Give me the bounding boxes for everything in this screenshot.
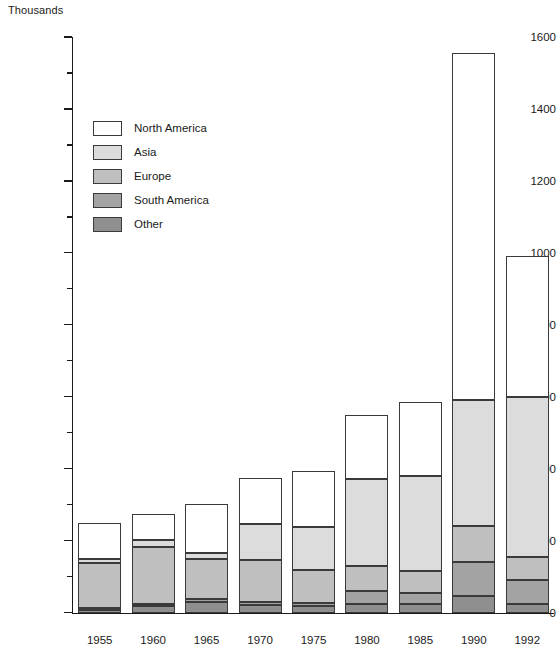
bar-segment-north-america [185, 504, 228, 553]
bar-segment-north-america [506, 256, 549, 396]
chart-legend: North AmericaAsiaEuropeSouth AmericaOthe… [93, 116, 209, 236]
bar-segment-other [78, 610, 121, 613]
legend-label: Asia [134, 146, 156, 158]
y-tick-minor [67, 504, 72, 505]
legend-swatch [93, 145, 122, 160]
bar-segment-north-america [345, 415, 388, 480]
legend-item-south-america[interactable]: South America [93, 188, 209, 212]
x-tick-label-1985: 1985 [390, 634, 450, 646]
legend-item-europe[interactable]: Europe [93, 164, 209, 188]
y-tick-major [64, 180, 72, 181]
bar-segment-south-america [185, 599, 228, 602]
bar-segment-europe [292, 570, 335, 602]
bar-1980 [345, 37, 388, 613]
bar-1970 [239, 37, 282, 613]
legend-label: North America [134, 122, 207, 134]
y-tick-major [64, 108, 72, 109]
bar-segment-north-america [239, 478, 282, 524]
y-tick-minor [67, 288, 72, 289]
y-tick-minor [67, 72, 72, 73]
y-tick-minor [67, 144, 72, 145]
bar-1975 [292, 37, 335, 613]
bar-segment-asia [185, 553, 228, 559]
x-tick-label-1975: 1975 [284, 634, 344, 646]
bar-segment-south-america [132, 604, 175, 606]
x-tick-label-1980: 1980 [337, 634, 397, 646]
y-tick-minor [67, 360, 72, 361]
y-axis-line [72, 37, 73, 614]
bar-segment-other [345, 604, 388, 613]
bar-segment-europe [239, 560, 282, 601]
bar-segment-asia [78, 559, 121, 563]
bar-segment-europe [452, 526, 495, 562]
y-tick-major [64, 540, 72, 541]
legend-label: Europe [134, 170, 171, 182]
legend-swatch [93, 193, 122, 208]
bar-segment-europe [185, 559, 228, 599]
bar-segment-europe [399, 571, 442, 593]
y-tick-major [64, 252, 72, 253]
y-tick-minor [67, 216, 72, 217]
legend-item-asia[interactable]: Asia [93, 140, 209, 164]
bar-segment-europe [78, 563, 121, 608]
bar-segment-south-america [506, 580, 549, 603]
x-tick-label-1965: 1965 [177, 634, 237, 646]
bar-segment-asia [292, 527, 335, 570]
y-tick-major [64, 396, 72, 397]
bar-segment-other [239, 605, 282, 613]
legend-swatch [93, 169, 122, 184]
bar-segment-south-america [399, 593, 442, 604]
bar-1990 [452, 37, 495, 613]
bar-segment-other [292, 606, 335, 612]
bar-segment-other [452, 596, 495, 612]
x-tick-label-1992: 1992 [497, 634, 557, 646]
x-tick-label-1990: 1990 [444, 634, 504, 646]
legend-item-other[interactable]: Other [93, 212, 209, 236]
bar-1992 [506, 37, 549, 613]
bar-segment-north-america [78, 523, 121, 558]
bar-segment-south-america [292, 603, 335, 607]
bar-segment-south-america [239, 602, 282, 605]
y-tick-minor [67, 432, 72, 433]
bar-segment-asia [452, 400, 495, 526]
y-tick-minor [67, 576, 72, 577]
bar-segment-asia [506, 397, 549, 557]
bar-segment-asia [239, 524, 282, 560]
bar-segment-other [399, 604, 442, 613]
bar-segment-north-america [452, 53, 495, 400]
bar-segment-north-america [399, 402, 442, 476]
y-axis-unit-label: Thousands [8, 4, 63, 16]
bar-segment-europe [132, 547, 175, 604]
legend-swatch [93, 217, 122, 232]
bar-segment-north-america [292, 471, 335, 527]
legend-swatch [93, 121, 122, 136]
y-tick-major [64, 468, 72, 469]
bar-segment-other [185, 602, 228, 613]
bar-segment-south-america [345, 591, 388, 604]
bar-segment-other [132, 606, 175, 612]
legend-item-north-america[interactable]: North America [93, 116, 209, 140]
bar-segment-asia [399, 476, 442, 571]
bar-segment-europe [345, 566, 388, 591]
bar-1985 [399, 37, 442, 613]
legend-label: Other [134, 218, 163, 230]
y-tick-major [64, 324, 72, 325]
legend-label: South America [134, 194, 209, 206]
x-tick-label-1970: 1970 [230, 634, 290, 646]
bar-segment-other [506, 604, 549, 613]
bar-segment-europe [506, 557, 549, 580]
bar-segment-south-america [78, 608, 121, 610]
x-tick-label-1955: 1955 [70, 634, 130, 646]
bar-segment-asia [345, 479, 388, 565]
bar-segment-asia [132, 540, 175, 548]
y-tick-major [64, 612, 72, 613]
bar-segment-north-america [132, 514, 175, 540]
x-axis-line [72, 613, 554, 614]
x-tick-label-1960: 1960 [123, 634, 183, 646]
bar-segment-south-america [452, 562, 495, 596]
y-tick-major [64, 36, 72, 37]
